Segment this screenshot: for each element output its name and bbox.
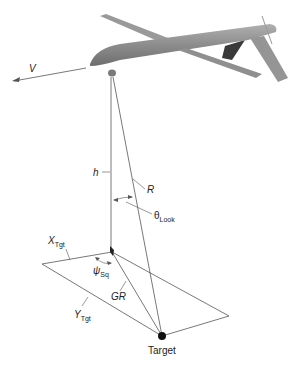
uav-geometry-diagram: V h R θLook XTgt ψSq GR YTgt Target (0, 0, 298, 366)
squint-angle-arc (95, 257, 112, 265)
ground-range-leader (120, 281, 126, 291)
squint-angle-label: ψSq (93, 266, 109, 276)
look-angle-label: θLook (154, 211, 175, 221)
ground-plane (42, 252, 229, 336)
velocity-arrow (12, 68, 86, 82)
ground-range-label: GR (111, 292, 126, 302)
diagram-graphics (0, 0, 298, 366)
slant-range-leader (133, 179, 145, 189)
target-label: Target (148, 346, 176, 356)
velocity-label: V (29, 64, 36, 74)
slant-range-label: R (147, 185, 154, 195)
target-dot (158, 332, 166, 340)
y-target-label: YTgt (74, 310, 91, 320)
altitude-label: h (93, 168, 99, 178)
y-target-leader (82, 297, 88, 306)
look-angle-arc (113, 195, 152, 214)
x-target-leader (66, 249, 70, 260)
uav-aircraft-icon (90, 14, 288, 82)
x-target-label: XTgt (48, 236, 65, 246)
